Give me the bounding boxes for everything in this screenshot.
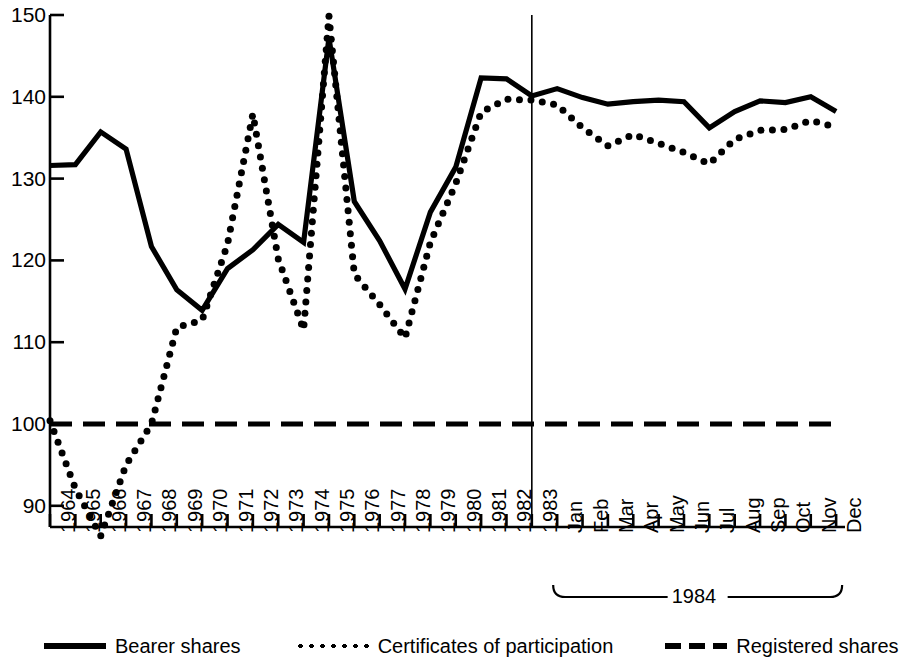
month-group-year-label: 1984	[672, 586, 717, 606]
solid-line-icon	[44, 643, 106, 649]
legend-label-certificates-of-participation: Certificates of participation	[378, 636, 614, 656]
x-axis-tick-label: Jun	[692, 501, 712, 533]
x-axis-tick-label: Mar	[616, 499, 636, 533]
x-axis-tick-label: 1966	[109, 489, 129, 534]
x-axis-tick-label: Jul	[717, 507, 737, 533]
x-axis-tick-label: 1967	[134, 489, 154, 534]
x-axis-tick-label: 1968	[159, 489, 179, 534]
x-axis-tick-label: Aug	[743, 497, 763, 533]
x-axis-tick-label: 1971	[236, 489, 256, 534]
x-axis-tick-label: 1983	[540, 489, 560, 534]
y-axis-tick-label: 150	[0, 4, 46, 25]
dashed-line-icon	[665, 643, 727, 649]
x-axis-tick-label: Oct	[793, 502, 813, 533]
x-axis-tick-label: May	[667, 495, 687, 533]
chart-axes	[50, 15, 845, 527]
x-axis-tick-label: Feb	[591, 499, 611, 533]
x-axis-tick-label: Apr	[641, 502, 661, 533]
x-axis-tick-label: 1982	[514, 489, 534, 534]
legend-item-certificates-of-participation: Certificates of participation	[295, 636, 614, 656]
x-axis-tick-label: 1975	[337, 489, 357, 534]
y-axis-tick-label: 110	[0, 331, 46, 352]
y-axis-tick-label: 140	[0, 86, 46, 107]
x-axis-tick-label: 1977	[388, 489, 408, 534]
x-axis-tick-label: 1969	[185, 489, 205, 534]
x-axis-tick-label: 1972	[261, 489, 281, 534]
y-axis-tick-label: 90	[0, 495, 46, 516]
x-axis-tick-label: 1981	[489, 489, 509, 534]
x-axis-tick-label: Jan	[565, 501, 585, 533]
series-certificates-of-participation	[47, 13, 832, 540]
legend-item-registered-shares: Registered shares	[665, 636, 898, 656]
x-axis-tick-label: Sep	[768, 497, 788, 533]
x-axis-tick-label: 1976	[362, 489, 382, 534]
y-axis-tick-label: 100	[0, 413, 46, 434]
x-axis-tick-label: 1973	[286, 489, 306, 534]
legend-item-bearer-shares: Bearer shares	[44, 636, 241, 656]
chart-legend: Bearer shares Certificates of participat…	[0, 628, 854, 664]
series-bearer-shares	[50, 38, 836, 310]
legend-label-bearer-shares: Bearer shares	[115, 636, 241, 656]
x-axis-tick-label: 1979	[438, 489, 458, 534]
x-axis-tick-label: 1965	[83, 489, 103, 534]
x-axis-tick-label: 1978	[413, 489, 433, 534]
dotted-line-icon	[295, 643, 369, 649]
x-axis-tick-label: 1970	[210, 489, 230, 534]
y-axis-tick-label: 120	[0, 249, 46, 270]
x-axis-tick-label: 1974	[312, 489, 332, 534]
x-axis-tick-label: Nov	[819, 497, 839, 533]
x-axis-tick-label: 1980	[464, 489, 484, 534]
x-axis-tick-label: Dec	[844, 497, 864, 533]
y-axis-tick-label: 130	[0, 168, 46, 189]
legend-label-registered-shares: Registered shares	[736, 636, 898, 656]
x-axis-tick-label: 1964	[58, 489, 78, 534]
